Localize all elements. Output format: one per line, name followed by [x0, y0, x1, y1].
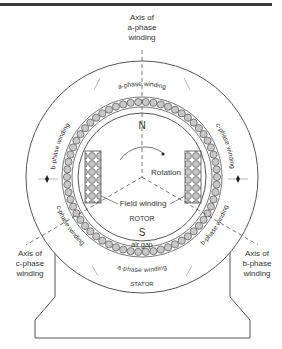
south-pole-label: S: [139, 227, 146, 238]
field-winding-right: [185, 151, 201, 203]
axis-a-label-3: winding: [127, 33, 155, 42]
axis-a-label-1: Axis of: [130, 13, 155, 22]
machine-diagram: a-phase winding b-phase winding c-phase …: [0, 0, 282, 349]
axis-b-label-3: winding: [242, 269, 270, 278]
field-winding-left: [85, 151, 101, 203]
axis-c-label-3: winding: [15, 269, 43, 278]
air-gap-label: air gap: [131, 241, 153, 249]
north-pole-label: N: [138, 120, 145, 131]
rotor-label: ROTOR: [129, 215, 154, 222]
axis-a-label-2: a-phase: [128, 23, 157, 32]
axis-c-label-2: c-phase: [16, 259, 45, 268]
rotation-label: Rotation: [151, 168, 181, 177]
axis-b-label-1: Axis of: [245, 249, 270, 258]
field-winding-label: Field winding: [120, 199, 167, 208]
axis-c-label-1: Axis of: [18, 249, 43, 258]
stator-label: STATOR: [130, 281, 154, 287]
axis-b-label-2: b-phase: [243, 259, 272, 268]
